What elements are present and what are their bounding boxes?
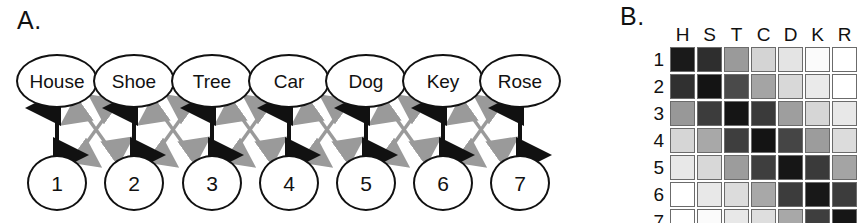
matrix-cell-7-K xyxy=(805,209,830,223)
matrix-cell-5-H xyxy=(670,155,695,180)
word-node-label: Shoe xyxy=(112,72,156,91)
matrix-cell-7-R xyxy=(832,209,857,223)
matrix-row-header-7: 7 xyxy=(648,209,664,223)
matrix-cell-4-K xyxy=(805,128,830,153)
number-node-label: 3 xyxy=(206,173,218,194)
number-node-5[interactable]: 5 xyxy=(336,155,396,211)
matrix-column-header-r: R xyxy=(832,25,857,45)
panel-b-label: B. xyxy=(620,2,645,31)
matrix-cell-3-K xyxy=(805,101,830,126)
word-node-label: Tree xyxy=(193,72,231,91)
matrix-cell-2-R xyxy=(832,74,857,99)
word-node-car[interactable]: Car xyxy=(248,54,330,108)
matrix-cell-7-C xyxy=(751,209,776,223)
matrix-column-header-c: C xyxy=(751,25,776,45)
number-node-label: 5 xyxy=(360,173,372,194)
word-node-house[interactable]: House xyxy=(16,54,98,108)
matrix-cell-4-H xyxy=(670,128,695,153)
matrix-cell-5-D xyxy=(778,155,803,180)
matrix-cell-4-S xyxy=(697,128,722,153)
number-node-label: 2 xyxy=(128,173,140,194)
matrix-row-header-1: 1 xyxy=(648,47,664,72)
matrix-column-header-k: K xyxy=(805,25,830,45)
matrix-cell-5-C xyxy=(751,155,776,180)
number-node-4[interactable]: 4 xyxy=(259,155,319,211)
matrix-cell-1-R xyxy=(832,47,857,72)
matrix-cell-1-H xyxy=(670,47,695,72)
matrix-cell-2-T xyxy=(724,74,749,99)
matrix-cell-7-T xyxy=(724,209,749,223)
matrix-cell-5-T xyxy=(724,155,749,180)
matrix-cell-3-C xyxy=(751,101,776,126)
matrix-cell-2-D xyxy=(778,74,803,99)
word-node-dog[interactable]: Dog xyxy=(325,54,407,108)
matrix-cell-7-D xyxy=(778,209,803,223)
matrix-cell-1-T xyxy=(724,47,749,72)
matrix-cell-6-R xyxy=(832,182,857,207)
matrix-row xyxy=(670,128,859,153)
matrix-cell-3-R xyxy=(832,101,857,126)
matrix-row-header-4: 4 xyxy=(648,128,664,153)
matrix-cell-4-T xyxy=(724,128,749,153)
matrix-cell-3-H xyxy=(670,101,695,126)
matrix-cell-5-K xyxy=(805,155,830,180)
matrix-cell-2-H xyxy=(670,74,695,99)
matrix-row xyxy=(670,182,859,207)
matrix-cell-5-S xyxy=(697,155,722,180)
matrix-cell-3-S xyxy=(697,101,722,126)
matrix-cell-6-D xyxy=(778,182,803,207)
word-node-rose[interactable]: Rose xyxy=(479,54,561,108)
matrix-cell-1-D xyxy=(778,47,803,72)
matrix-cell-7-S xyxy=(697,209,722,223)
word-node-label: Rose xyxy=(498,72,542,91)
matrix-cell-6-S xyxy=(697,182,722,207)
number-node-3[interactable]: 3 xyxy=(182,155,242,211)
number-node-label: 7 xyxy=(514,173,526,194)
matrix-row-header-5: 5 xyxy=(648,155,664,180)
matrix-row xyxy=(670,101,859,126)
matrix-row xyxy=(670,47,859,72)
matrix-row xyxy=(670,74,859,99)
matrix-cell-7-H xyxy=(670,209,695,223)
matrix-row-header-2: 2 xyxy=(648,74,664,99)
matrix-cell-2-C xyxy=(751,74,776,99)
matrix-cell-1-S xyxy=(697,47,722,72)
number-node-label: 4 xyxy=(283,173,295,194)
matrix-column-header-t: T xyxy=(724,25,749,45)
matrix-column-header-s: S xyxy=(697,25,722,45)
number-node-1[interactable]: 1 xyxy=(27,155,87,211)
word-node-label: House xyxy=(30,72,85,91)
matrix-row xyxy=(670,155,859,180)
number-node-2[interactable]: 2 xyxy=(104,155,164,211)
word-node-tree[interactable]: Tree xyxy=(171,54,253,108)
word-node-shoe[interactable]: Shoe xyxy=(93,54,175,108)
word-node-key[interactable]: Key xyxy=(402,54,484,108)
word-node-label: Car xyxy=(274,72,305,91)
matrix-row-labels: 1234567 xyxy=(648,47,664,223)
matrix-row-header-3: 3 xyxy=(648,101,664,126)
number-node-label: 6 xyxy=(437,173,449,194)
number-node-7[interactable]: 7 xyxy=(490,155,550,211)
matrix-cell-2-K xyxy=(805,74,830,99)
matrix-column-header-h: H xyxy=(670,25,695,45)
matrix-cell-2-S xyxy=(697,74,722,99)
number-node-label: 1 xyxy=(51,173,63,194)
matrix-column-headers: HSTCDKR xyxy=(670,25,859,45)
matrix-cell-6-C xyxy=(751,182,776,207)
matrix-cell-6-H xyxy=(670,182,695,207)
matrix-row xyxy=(670,209,859,223)
matrix-cell-4-R xyxy=(832,128,857,153)
matrix-cell-6-K xyxy=(805,182,830,207)
matrix-cell-1-K xyxy=(805,47,830,72)
matrix-cell-5-R xyxy=(832,155,857,180)
matrix-cell-6-T xyxy=(724,182,749,207)
panel-a-diagram: A. xyxy=(0,0,600,223)
matrix-cell-3-T xyxy=(724,101,749,126)
matrix-cell-1-C xyxy=(751,47,776,72)
matrix-grid xyxy=(670,47,859,223)
matrix-cell-4-C xyxy=(751,128,776,153)
word-node-label: Dog xyxy=(349,72,384,91)
matrix-row-header-6: 6 xyxy=(648,182,664,207)
number-node-6[interactable]: 6 xyxy=(413,155,473,211)
word-node-label: Key xyxy=(427,72,460,91)
